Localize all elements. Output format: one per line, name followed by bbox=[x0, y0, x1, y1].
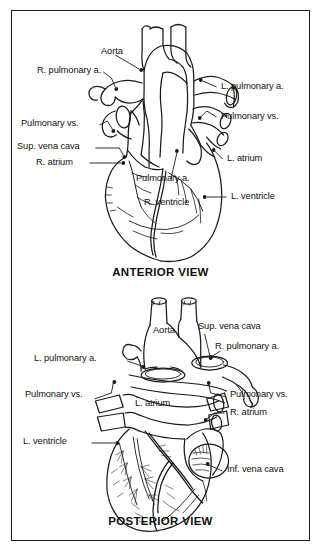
label-posterior-pulmonary-vs-left: Pulmonary vs. bbox=[25, 390, 83, 399]
label-anterior-r-pulmonary-a: R. pulmonary a. bbox=[37, 66, 101, 75]
leader-pulmonary-vs-right bbox=[201, 111, 217, 117]
label-posterior-l-pulmonary-a: L. pulmonary a. bbox=[34, 354, 97, 363]
label-posterior-inf-vena-cava: Inf. vena cava bbox=[227, 465, 283, 474]
leader-r-pulmonary-a bbox=[103, 72, 115, 87]
label-posterior-l-atrium: L. atrium bbox=[135, 399, 170, 408]
label-anterior-sup-vena-cava: Sup. vena cava bbox=[17, 142, 80, 151]
label-anterior-r-ventricle: R. ventricle bbox=[144, 198, 189, 207]
posterior-view-panel: Aorta Sup. vena cava R. pulmonary a. L. … bbox=[12, 289, 309, 539]
label-posterior-pulmonary-vs-right: Pulmonary vs. bbox=[230, 390, 288, 399]
label-posterior-r-atrium: R. atrium bbox=[230, 408, 267, 417]
label-posterior-l-ventricle: L. ventricle bbox=[23, 437, 67, 446]
label-anterior-l-pulmonary-a: L. pulmonary a. bbox=[221, 82, 284, 91]
leader-pulmonary-vs-left bbox=[99, 121, 112, 129]
label-anterior-pulmonary-vs-right: Pulmonary vs. bbox=[221, 112, 279, 121]
label-anterior-aorta: Aorta bbox=[101, 47, 123, 56]
label-posterior-aorta: Aorta bbox=[153, 326, 175, 335]
figure-frame: Aorta R. pulmonary a. Pulmonary vs. Sup.… bbox=[11, 10, 310, 541]
label-posterior-sup-vena-cava: Sup. vena cava bbox=[198, 322, 261, 331]
label-anterior-pulmonary-a: Pulmonary a. bbox=[136, 174, 190, 183]
label-anterior-l-ventricle: L. ventricle bbox=[231, 192, 275, 201]
leader-l-atrium bbox=[215, 151, 223, 159]
label-posterior-r-pulmonary-a: R. pulmonary a. bbox=[215, 342, 279, 351]
label-anterior-r-atrium: R. atrium bbox=[36, 158, 73, 167]
leader-post-sup-vena-cava bbox=[205, 334, 210, 355]
label-anterior-l-atrium: L. atrium bbox=[227, 154, 262, 163]
anterior-view-panel: Aorta R. pulmonary a. Pulmonary vs. Sup.… bbox=[12, 11, 309, 289]
leader-sup-vena-cava bbox=[95, 148, 123, 155]
posterior-view-title: POSTERIOR VIEW bbox=[12, 515, 309, 527]
anterior-view-title: ANTERIOR VIEW bbox=[12, 266, 309, 278]
leader-l-pulmonary-a bbox=[203, 81, 217, 87]
label-anterior-pulmonary-vs-left: Pulmonary vs. bbox=[21, 119, 79, 128]
leader-aorta bbox=[115, 55, 139, 69]
